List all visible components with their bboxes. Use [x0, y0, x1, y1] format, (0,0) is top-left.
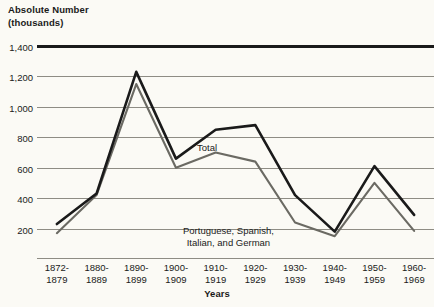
y-tick-label-800: 800 — [17, 134, 33, 144]
line-portuguese-spanish-italian-german — [57, 84, 414, 236]
x-tick-label-7: 1940- 1949 — [314, 262, 356, 285]
y-tick-label-1400: 1,400 — [9, 43, 33, 53]
x-axis-title: Years — [0, 288, 434, 299]
y-axis-title-line2: (thousands) — [8, 17, 63, 28]
x-tick-label-1: 1880- 1889 — [76, 262, 118, 285]
x-tick-label-5: 1920- 1929 — [234, 262, 276, 285]
x-tick-label-9: 1960- 1969 — [393, 262, 434, 285]
y-axis-title: Absolute Number(thousands) — [8, 4, 89, 29]
y-axis-title-line1: Absolute Number — [8, 4, 89, 15]
x-tick-label-6: 1930- 1939 — [274, 262, 316, 285]
series-label-total: Total — [197, 142, 217, 154]
x-tick-label-0: 1872- 1879 — [36, 262, 78, 285]
y-tick-label-400: 400 — [17, 195, 33, 205]
line-total — [57, 72, 414, 232]
x-tick-label-2: 1890- 1899 — [115, 262, 157, 285]
series-label-portuguese-spanish-italian-german: Portuguese, Spanish, Italian, and German — [183, 225, 274, 249]
y-tick-label-1200: 1,200 — [9, 73, 33, 83]
chart-root: Absolute Number(thousands) 1,4001,2001,0… — [0, 0, 434, 307]
x-tick-label-3: 1900- 1909 — [155, 262, 197, 285]
x-tick-label-4: 1910- 1919 — [195, 262, 237, 285]
y-tick-label-1000: 1,000 — [9, 104, 33, 114]
y-tick-label-200: 200 — [17, 226, 33, 236]
x-tick-label-8: 1950- 1959 — [353, 262, 395, 285]
y-tick-label-600: 600 — [17, 165, 33, 175]
plot-area: 1,4001,2001,000800600400200 Total Portug… — [37, 36, 434, 259]
